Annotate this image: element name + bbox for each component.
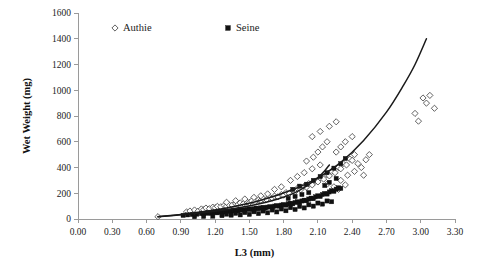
data-point-authie [342,139,348,145]
data-point-seine [293,207,297,211]
data-point-seine [192,215,196,219]
fit-curve-authie-fit [158,39,426,217]
data-point-authie [301,170,307,176]
y-tick-label: 0 [66,214,71,224]
data-point-authie [333,149,339,155]
x-tick-label: 3.00 [412,227,429,237]
data-point-seine [202,214,206,218]
data-point-seine [284,209,288,213]
data-point-seine [279,207,283,211]
y-tick-label: 1000 [52,86,71,96]
legend-marker-authie [112,25,118,31]
data-point-seine [234,211,238,215]
data-point-authie [338,177,344,183]
data-point-authie [278,184,284,190]
data-point-seine [300,192,304,196]
data-point-authie [423,100,429,106]
data-point-seine [298,204,302,208]
data-point-authie [315,149,321,155]
y-tick-label: 1600 [52,8,71,18]
x-tick-label: 2.70 [378,227,395,237]
data-point-seine [327,180,331,184]
y-axis-title: Wet Weight (mg) [21,77,33,154]
data-point-seine [243,210,247,214]
data-point-seine [266,211,270,215]
data-point-authie [309,134,315,140]
data-point-seine [302,206,306,210]
data-point-seine [288,206,292,210]
data-point-seine [334,176,338,180]
data-point-authie [431,105,437,111]
data-point-seine [229,213,233,217]
data-point-authie [319,144,325,150]
data-point-seine [339,186,343,190]
data-point-seine [256,211,260,215]
x-tick-label: 3.30 [447,227,464,237]
data-point-seine [220,214,224,218]
data-point-authie [361,172,367,178]
x-tick-label: 1.20 [207,227,224,237]
x-tick-label: 1.80 [275,227,292,237]
data-point-authie [412,110,418,116]
data-point-seine [224,212,228,216]
x-tick-label: 2.40 [344,227,361,237]
data-point-authie [317,162,323,168]
data-point-authie [349,134,355,140]
data-point-authie [287,177,293,183]
data-point-authie [342,182,348,188]
x-tick-label: 0.90 [173,227,190,237]
data-point-seine [320,202,324,206]
data-point-authie [309,166,315,172]
data-point-authie [326,123,332,129]
x-tick-label: 0.60 [138,227,155,237]
scatter-plot: 020040060080010001200140016000.000.300.6… [0,0,479,273]
data-point-authie [420,95,426,101]
data-point-seine [270,208,274,212]
x-tick-label: 0.30 [104,227,121,237]
data-point-seine [323,183,327,187]
data-point-seine [307,191,311,195]
x-axis-title: L3 (mm) [235,247,275,259]
y-tick-label: 1400 [52,34,71,44]
data-point-seine [252,210,256,214]
x-tick-label: 2.10 [310,227,327,237]
data-point-seine [293,194,297,198]
data-point-seine [286,196,290,200]
data-point-authie [427,92,433,98]
data-point-seine [316,201,320,205]
y-tick-label: 200 [57,189,72,199]
data-point-seine [238,213,242,217]
data-point-authie [294,173,300,179]
data-point-seine [311,204,315,208]
data-point-authie [303,158,309,164]
data-point-authie [351,168,357,174]
data-point-authie [333,119,339,125]
data-point-authie [338,144,344,150]
data-point-seine [275,210,279,214]
data-point-authie [324,139,330,145]
legend-label-authie: Authie [123,22,152,33]
y-tick-label: 800 [57,111,72,121]
data-point-authie [271,186,277,192]
data-point-authie [366,152,372,158]
data-point-authie [317,128,323,134]
data-point-seine [307,203,311,207]
data-point-seine [247,212,251,216]
data-point-seine [325,199,329,203]
data-point-authie [345,172,351,178]
data-point-seine [261,209,265,213]
legend-label-seine: Seine [236,22,260,33]
data-point-seine [330,200,334,204]
y-tick-label: 400 [57,163,72,173]
data-point-authie [415,118,421,124]
y-tick-label: 1200 [52,60,71,70]
x-tick-label: 0.00 [70,227,87,237]
data-point-seine [211,214,215,218]
y-tick-label: 600 [57,137,72,147]
data-point-authie [310,154,316,160]
x-tick-label: 1.50 [241,227,258,237]
chart-figure: 020040060080010001200140016000.000.300.6… [0,0,479,273]
data-point-authie [363,157,369,163]
legend-marker-seine [226,26,231,31]
